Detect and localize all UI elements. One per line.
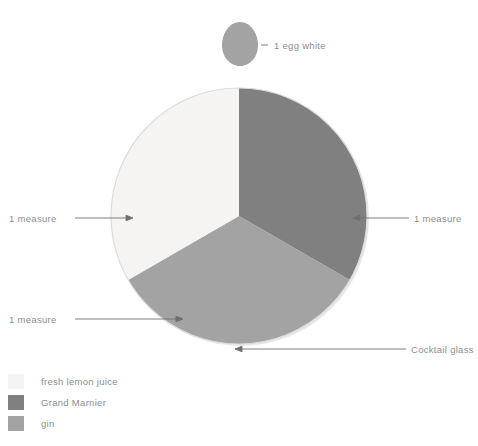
callout-grand-marnier-measure: 1 measure xyxy=(414,214,462,224)
callout-lemon-juice-measure: 1 measure xyxy=(9,214,57,224)
callout-egg-white: 1 egg white xyxy=(274,41,326,51)
legend-item-gin[interactable]: gin xyxy=(8,413,208,434)
recipe-pie-diagram: 1 egg white 1 measure 1 measure 1 measur… xyxy=(0,0,478,446)
legend: fresh lemon juice Grand Marnier gin xyxy=(8,371,208,434)
callout-gin-measure: 1 measure xyxy=(9,315,57,325)
egg-white-icon xyxy=(222,22,258,66)
legend-label-gin: gin xyxy=(41,419,55,429)
legend-label-grand-marnier: Grand Marnier xyxy=(41,398,106,408)
legend-item-fresh-lemon-juice[interactable]: fresh lemon juice xyxy=(8,371,208,392)
legend-label-fresh-lemon-juice: fresh lemon juice xyxy=(41,377,118,387)
leader-arrow-cocktail-glass xyxy=(235,346,242,352)
legend-swatch-fresh-lemon-juice xyxy=(8,374,24,389)
legend-swatch-grand-marnier xyxy=(8,395,24,410)
callout-cocktail-glass: Cocktail glass xyxy=(411,345,474,355)
legend-item-grand-marnier[interactable]: Grand Marnier xyxy=(8,392,208,413)
legend-swatch-gin xyxy=(8,416,24,431)
